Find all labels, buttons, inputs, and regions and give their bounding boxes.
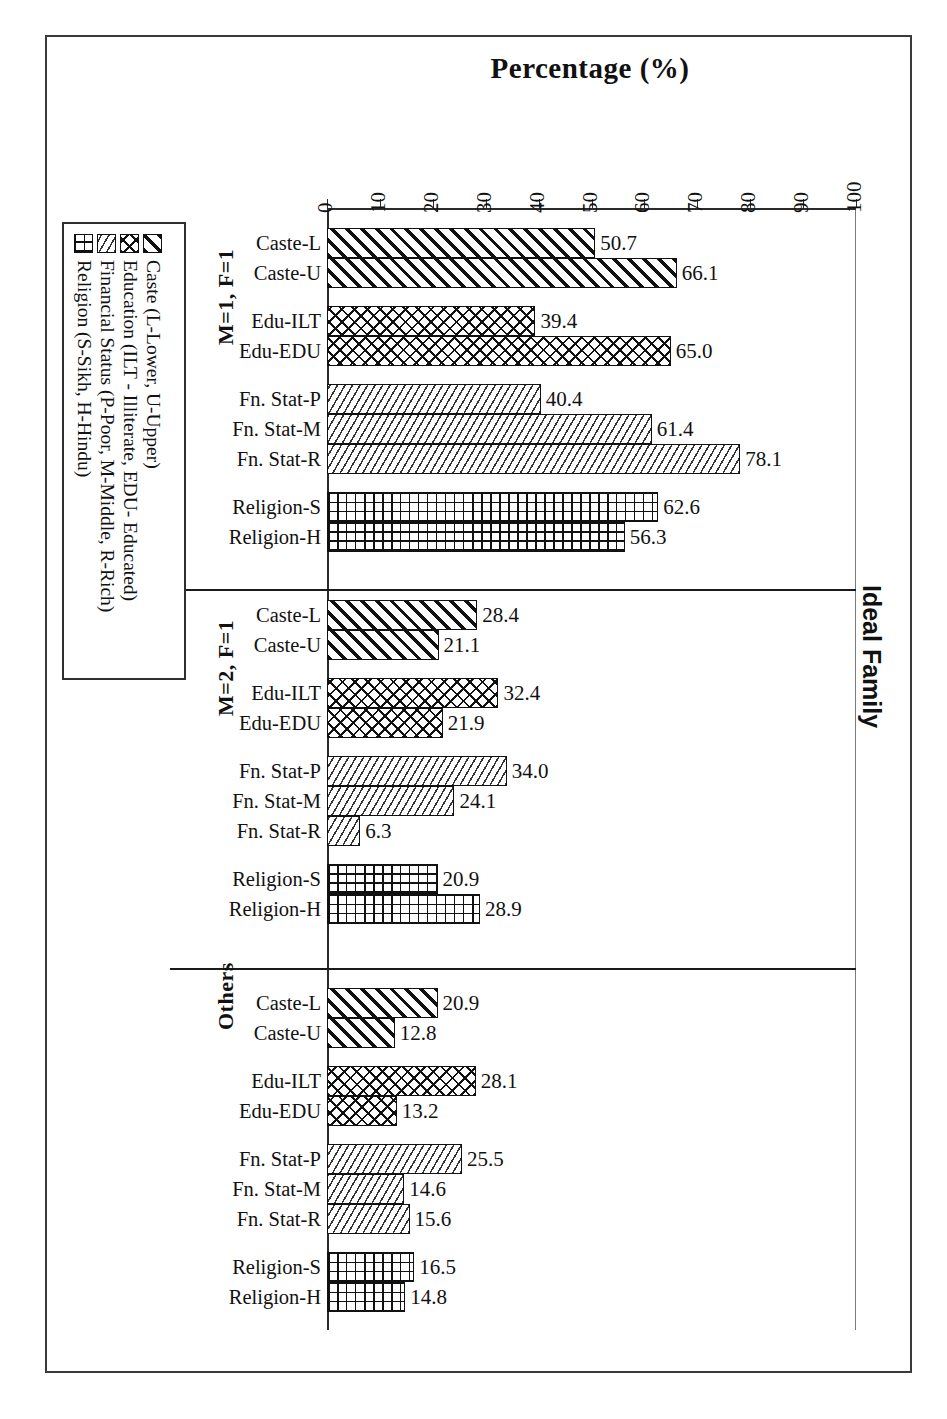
bar-category-label: Fn. Stat-R bbox=[237, 820, 321, 843]
panel-separator bbox=[170, 589, 856, 591]
bar bbox=[327, 894, 480, 924]
legend-item: Caste (L-Lower, U-Upper) bbox=[142, 234, 164, 469]
panel-label: M=1, F=1 bbox=[213, 249, 239, 345]
bar-category-label: Caste-L bbox=[256, 992, 321, 1015]
bar-category-label: Fn. Stat-P bbox=[239, 388, 321, 411]
bar-row: Religion-S16.5 bbox=[327, 1252, 856, 1282]
bar bbox=[327, 678, 498, 708]
bar-category-label: Fn. Stat-R bbox=[237, 1208, 321, 1231]
bar bbox=[327, 306, 535, 336]
panel-label: M=2, F=1 bbox=[213, 620, 239, 716]
bar bbox=[327, 414, 652, 444]
bar-value-label: 12.8 bbox=[400, 1021, 437, 1046]
panel-label: Others bbox=[213, 962, 239, 1030]
bar-value-label: 61.4 bbox=[657, 417, 694, 442]
bar-row: Caste-L50.7 bbox=[327, 228, 856, 258]
bar bbox=[327, 816, 360, 846]
bar bbox=[327, 444, 740, 474]
bar bbox=[327, 228, 595, 258]
bar bbox=[327, 630, 439, 660]
bar-value-label: 15.6 bbox=[415, 1207, 452, 1232]
bar bbox=[327, 1204, 410, 1234]
x-axis-tick-label: 70 bbox=[685, 192, 706, 213]
x-axis-tick-label: 60 bbox=[632, 192, 653, 213]
bar bbox=[327, 786, 454, 816]
bar bbox=[327, 1018, 395, 1048]
bar bbox=[327, 384, 541, 414]
bar-value-label: 66.1 bbox=[682, 261, 719, 286]
bar bbox=[327, 258, 677, 288]
bar-value-label: 24.1 bbox=[459, 789, 496, 814]
bar-category-label: Caste-U bbox=[254, 262, 321, 285]
x-axis-tick-label: 100 bbox=[844, 182, 865, 214]
legend-label: Caste (L-Lower, U-Upper) bbox=[142, 260, 164, 469]
bar bbox=[327, 1096, 397, 1126]
bar-row: Edu-EDU21.9 bbox=[327, 708, 856, 738]
bar-row: Caste-L28.4 bbox=[327, 600, 856, 630]
bar-row: Fn. Stat-R6.3 bbox=[327, 816, 856, 846]
bar-value-label: 20.9 bbox=[443, 991, 480, 1016]
bar-category-label: Caste-U bbox=[254, 634, 321, 657]
bar-row: Religion-H28.9 bbox=[327, 894, 856, 924]
bar-value-label: 28.9 bbox=[485, 897, 522, 922]
x-axis-tick-label: 20 bbox=[421, 192, 442, 213]
bar-category-label: Religion-H bbox=[229, 1286, 321, 1309]
bar-value-label: 14.8 bbox=[410, 1285, 447, 1310]
bar-row: Caste-U21.1 bbox=[327, 630, 856, 660]
bar-category-label: Edu-ILT bbox=[251, 682, 321, 705]
x-axis-tick-label: 50 bbox=[580, 192, 601, 213]
bar-category-label: Caste-L bbox=[256, 232, 321, 255]
panel-separator bbox=[170, 968, 856, 970]
bar-value-label: 34.0 bbox=[512, 759, 549, 784]
bar-category-label: Edu-ILT bbox=[251, 1070, 321, 1093]
bar-category-label: Edu-EDU bbox=[239, 340, 321, 363]
bar-value-label: 13.2 bbox=[402, 1099, 439, 1124]
bar-value-label: 6.3 bbox=[365, 819, 391, 844]
bar bbox=[327, 1066, 476, 1096]
bar-value-label: 28.4 bbox=[482, 603, 519, 628]
bar-category-label: Fn. Stat-P bbox=[239, 1148, 321, 1171]
bar-row: Caste-L20.9 bbox=[327, 988, 856, 1018]
legend-swatch-fin-icon bbox=[98, 234, 117, 253]
bar-row: Edu-EDU13.2 bbox=[327, 1096, 856, 1126]
bar-value-label: 39.4 bbox=[540, 309, 577, 334]
bar bbox=[327, 492, 658, 522]
bar-row: Religion-S20.9 bbox=[327, 864, 856, 894]
bar-row: Religion-S62.6 bbox=[327, 492, 856, 522]
x-axis-tick-label: 30 bbox=[474, 192, 495, 213]
legend-box: Caste (L-Lower, U-Upper)Education (ILT -… bbox=[62, 222, 186, 680]
bar-row: Fn. Stat-M61.4 bbox=[327, 414, 856, 444]
bar-row: Fn. Stat-R15.6 bbox=[327, 1204, 856, 1234]
bar-value-label: 25.5 bbox=[467, 1147, 504, 1172]
bar-value-label: 20.9 bbox=[443, 867, 480, 892]
chart-title: Percentage (%) bbox=[330, 52, 850, 85]
bar-category-label: Edu-ILT bbox=[251, 310, 321, 333]
bar-category-label: Edu-EDU bbox=[239, 1100, 321, 1123]
legend-swatch-caste-icon bbox=[144, 234, 163, 253]
bar-value-label: 50.7 bbox=[600, 231, 637, 256]
bar-value-label: 16.5 bbox=[419, 1255, 456, 1280]
bar-category-label: Caste-U bbox=[254, 1022, 321, 1045]
bar-value-label: 62.6 bbox=[663, 495, 700, 520]
legend-item: Education (ILT - Illiterate, EDU- Educat… bbox=[119, 234, 141, 601]
bar-category-label: Religion-H bbox=[229, 526, 321, 549]
bar-category-label: Fn. Stat-P bbox=[239, 760, 321, 783]
bar bbox=[327, 600, 477, 630]
bar-value-label: 14.6 bbox=[409, 1177, 446, 1202]
bar-value-label: 28.1 bbox=[481, 1069, 518, 1094]
bar-category-label: Fn. Stat-M bbox=[232, 1178, 321, 1201]
bar bbox=[327, 988, 438, 1018]
bar-row: Caste-U12.8 bbox=[327, 1018, 856, 1048]
bar bbox=[327, 336, 671, 366]
legend-item: Religion (S-Sikh, H-Hindu) bbox=[73, 234, 95, 477]
bar-row: Fn. Stat-M14.6 bbox=[327, 1174, 856, 1204]
bar bbox=[327, 708, 443, 738]
bar bbox=[327, 864, 438, 894]
bar-row: Edu-EDU65.0 bbox=[327, 336, 856, 366]
bar-category-label: Caste-L bbox=[256, 604, 321, 627]
bar-row: Religion-H14.8 bbox=[327, 1282, 856, 1312]
bar-value-label: 65.0 bbox=[676, 339, 713, 364]
legend-label: Education (ILT - Illiterate, EDU- Educat… bbox=[119, 260, 141, 601]
bar-value-label: 56.3 bbox=[630, 525, 667, 550]
bar bbox=[327, 756, 507, 786]
